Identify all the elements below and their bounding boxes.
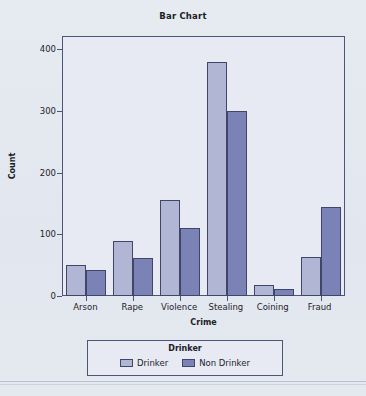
y-axis-tick-0: 0	[0, 290, 62, 302]
x-axis-tick-labels: ArsonRapeViolenceStealingCoiningFraud	[62, 302, 345, 316]
y-axis-title: Count	[8, 153, 17, 180]
legend-item-drinker[interactable]: Drinker	[120, 358, 168, 368]
bar-group	[254, 37, 294, 296]
legend-swatch-icon	[182, 359, 195, 367]
x-axis-tick-arson	[86, 296, 87, 301]
y-tick-label: 200	[40, 168, 56, 178]
legend-label: Non Drinker	[199, 358, 250, 368]
y-axis-tick-100: 100	[0, 228, 62, 240]
chart-canvas: Bar Chart 0100200300400 Count ArsonRapeV…	[0, 0, 366, 396]
x-tick-label-stealing: Stealing	[209, 302, 244, 312]
bar-group	[207, 37, 247, 296]
bar-violence-non-drinker[interactable]	[180, 228, 200, 296]
y-tick-mark	[57, 234, 62, 235]
x-axis-tick-coining	[274, 296, 275, 301]
x-axis-tick-violence	[180, 296, 181, 301]
bar-group	[160, 37, 200, 296]
y-tick-label: 300	[40, 106, 56, 116]
y-tick-label: 400	[40, 44, 56, 54]
legend: Drinker DrinkerNon Drinker	[87, 340, 283, 376]
legend-items: DrinkerNon Drinker	[88, 358, 282, 368]
bar-fraud-drinker[interactable]	[301, 257, 321, 296]
bar-coining-non-drinker[interactable]	[274, 289, 294, 296]
y-tick-mark	[57, 111, 62, 112]
x-axis-tick-fraud	[321, 296, 322, 301]
bar-rape-drinker[interactable]	[113, 241, 133, 297]
bar-group	[66, 37, 106, 296]
legend-title: Drinker	[88, 344, 282, 353]
bar-arson-drinker[interactable]	[66, 265, 86, 296]
y-tick-label: 0	[51, 291, 56, 301]
y-tick-mark	[57, 296, 62, 297]
x-axis-title: Crime	[62, 318, 345, 327]
x-tick-label-arson: Arson	[73, 302, 97, 312]
bar-fraud-non-drinker[interactable]	[321, 207, 341, 296]
y-axis-tick-400: 400	[0, 43, 62, 55]
y-tick-mark	[57, 173, 62, 174]
y-tick-mark	[57, 49, 62, 50]
x-tick-label-violence: Violence	[161, 302, 197, 312]
y-tick-label: 100	[40, 229, 56, 239]
bar-group	[301, 37, 341, 296]
legend-label: Drinker	[137, 358, 168, 368]
page-divider-bottom	[0, 384, 366, 385]
bar-coining-drinker[interactable]	[254, 285, 274, 296]
bar-arson-non-drinker[interactable]	[86, 270, 106, 296]
y-axis-tick-300: 300	[0, 105, 62, 117]
x-tick-label-coining: Coining	[257, 302, 289, 312]
bar-stealing-drinker[interactable]	[207, 62, 227, 296]
bar-rape-non-drinker[interactable]	[133, 258, 153, 296]
bars-container	[63, 37, 344, 296]
legend-swatch-icon	[120, 359, 133, 367]
bar-group	[113, 37, 153, 296]
x-axis-tick-stealing	[227, 296, 228, 301]
bar-violence-drinker[interactable]	[160, 200, 180, 296]
bar-stealing-non-drinker[interactable]	[227, 111, 247, 296]
legend-item-non-drinker[interactable]: Non Drinker	[182, 358, 250, 368]
page-divider-top	[0, 381, 366, 382]
x-tick-label-fraud: Fraud	[308, 302, 332, 312]
x-tick-label-rape: Rape	[121, 302, 143, 312]
x-axis-tick-rape	[133, 296, 134, 301]
